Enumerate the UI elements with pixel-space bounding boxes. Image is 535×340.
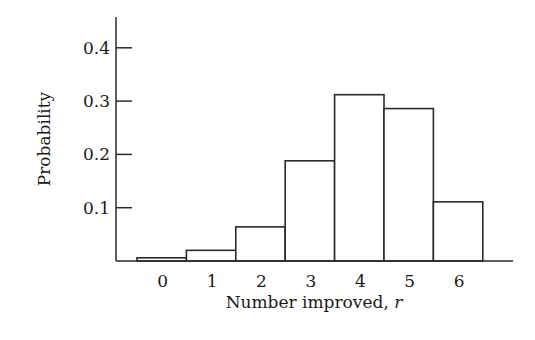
x-tick-label: 1 [207, 271, 218, 291]
y-tick-label: 0.3 [83, 91, 110, 111]
x-axis-label: Number improved, r [226, 292, 404, 312]
y-tick-label: 0.1 [83, 198, 110, 218]
x-axis-label-variable: r [394, 292, 403, 312]
y-axis-label: Probability [34, 91, 54, 186]
bar-2 [236, 227, 285, 261]
y-tick-label: 0.4 [83, 38, 110, 58]
x-axis-label-text: Number improved, [226, 292, 395, 312]
x-tick-label: 5 [404, 271, 415, 291]
y-ticks: 0.10.20.30.4 [83, 38, 132, 218]
x-tick-label: 2 [256, 271, 267, 291]
x-tick-label: 6 [454, 271, 465, 291]
bar-1 [186, 250, 235, 261]
bar-5 [384, 109, 433, 261]
bar-3 [285, 161, 334, 261]
x-tick-label: 3 [305, 271, 316, 291]
y-tick-label: 0.2 [83, 144, 110, 164]
probability-histogram: 0.10.20.30.4 0123456 Probability Number … [0, 0, 535, 340]
x-tick-labels: 0123456 [157, 271, 464, 291]
bar-6 [433, 202, 482, 261]
x-tick-label: 0 [157, 271, 168, 291]
bars-group [137, 95, 483, 261]
bar-4 [335, 95, 384, 261]
x-tick-label: 4 [355, 271, 366, 291]
